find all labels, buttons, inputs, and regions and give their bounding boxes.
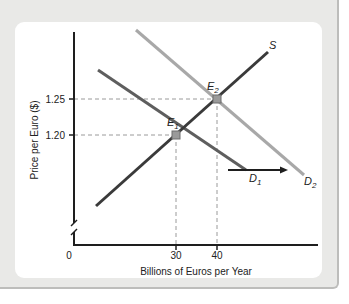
- y-tick-125: 1.25: [46, 94, 66, 105]
- x-tick-40: 40: [211, 250, 223, 261]
- label-d2: D2: [304, 175, 317, 190]
- label-e1: E1: [167, 116, 179, 131]
- x-tick-0: 0: [66, 250, 72, 261]
- guide-lines: [74, 99, 217, 245]
- x-tick-30: 30: [170, 250, 182, 261]
- x-axis: [74, 232, 318, 245]
- supply-curve: [96, 52, 268, 206]
- equilibrium-marker-e2: [213, 95, 221, 103]
- y-axis-title: Price per Euro ($): [29, 101, 40, 180]
- axes: [74, 32, 318, 245]
- x-axis-title: Billions of Euros per Year: [140, 266, 252, 277]
- tick-marks: [69, 99, 217, 250]
- equilibrium-marker-e1: [172, 131, 180, 139]
- y-tick-120: 1.20: [46, 130, 66, 141]
- shift-arrow-icon: [228, 167, 288, 174]
- axis-break-icon: [71, 220, 77, 235]
- label-d1: D1: [249, 172, 261, 187]
- supply-demand-chart: S E2 E1 D1 D2 1.25 1.20 0 30 40 Billions…: [0, 0, 349, 304]
- label-s: S: [269, 39, 277, 51]
